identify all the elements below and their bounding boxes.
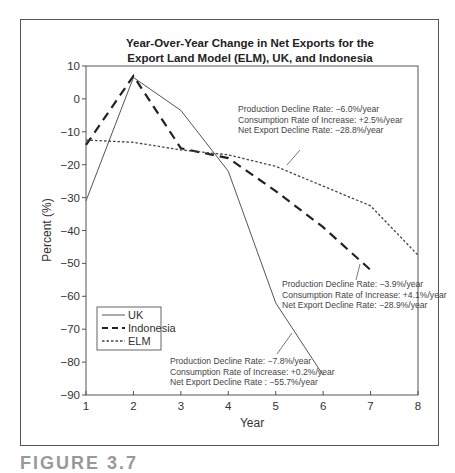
annotation-text: Consumption Rate of Increase: +2.5%/year [238,115,403,125]
annotation-elm: Production Decline Rate: −6.0%/yearConsu… [238,104,403,165]
x-tick-label: 5 [273,400,279,412]
y-tick-label: −30 [60,192,80,204]
annotation-text: Consumption Rate of Increase: +4.1%/year [282,290,447,300]
annotation-text: Consumption Rate of Increase: +0.2%/year [170,367,335,377]
legend: UKIndonesiaELM [97,307,177,350]
figure-caption: FIGURE 3.7 [20,453,138,473]
x-tick-label: 3 [178,400,184,412]
y-tick-label: −10 [60,126,80,138]
annotation-indonesia: Production Decline Rate: −3.9%/yearConsu… [282,264,447,310]
legend-label-uk: UK [128,309,144,321]
x-tick-label: 7 [367,400,373,412]
annotation-uk: Production Decline Rate: −7.8%/yearConsu… [170,333,335,387]
y-axis-label: Percent (%) [40,198,54,261]
y-tick-label: −90 [60,389,80,401]
annotations: Production Decline Rate: −6.0%/yearConsu… [170,104,447,387]
annotation-text: Production Decline Rate: −3.9%/year [282,279,423,289]
x-axis-label: Year [240,416,264,430]
x-tick-label: 1 [83,400,89,412]
y-tick-label: −80 [60,356,80,368]
y-tick-label: −40 [60,225,80,237]
y-tick-label: −70 [60,323,80,335]
y-tick-label: 10 [67,60,80,72]
legend-label-indonesia: Indonesia [128,322,177,334]
annotation-text: Net Export Decline Rate: −28.9%/year [282,300,428,310]
y-tick-label: 0 [74,93,80,105]
y-tick-label: −60 [60,290,80,302]
x-tick-label: 4 [225,400,232,412]
annotation-text: Production Decline Rate: −7.8%/year [170,356,311,366]
annotation-text: Net Export Decline Rate: −28.8%/year [238,125,384,135]
x-tick-label: 6 [320,400,326,412]
leader-line [277,333,292,354]
y-tick-label: −50 [60,257,80,269]
legend-label-elm: ELM [128,335,151,347]
y-tick-label: −20 [60,159,80,171]
leader-line [356,264,360,280]
annotation-text: Production Decline Rate: −6.0%/year [238,104,379,114]
x-tick-label: 8 [415,400,421,412]
x-tick-label: 2 [130,400,136,412]
leader-line [287,150,300,165]
annotation-text: Net Export Decline Rate : −55.7%/year [170,377,318,387]
